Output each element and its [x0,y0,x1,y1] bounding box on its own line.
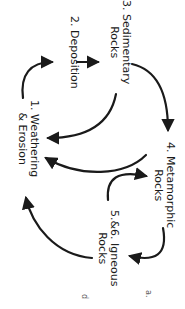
stage-metamorphic-rocks: 4. Metamorphic Rocks [152,142,176,228]
text-fragment: d [80,294,89,299]
arrow-sedimentary-to-weathering [48,94,116,138]
arrow-sedimentary-to-metamorphic [132,64,168,130]
rock-cycle-diagram: 2. Deposition 3. Sedimentary Rocks 1. We… [0,0,185,309]
stage-igneous-rocks: 5.&6. Igneous Rocks [96,210,120,286]
stage-sedimentary-rocks: 3. Sedimentary Rocks [108,0,132,84]
stage-weathering-erosion: 1. Weathering & Erosion [16,100,40,177]
arrow-metamorphic-to-weathering [46,155,146,172]
text-fragment: a. [144,290,153,297]
arrow-igneous-to-metamorphic [108,174,146,200]
stage-deposition: 2. Deposition [68,16,80,89]
arrow-metamorphic-to-igneous [130,228,164,258]
arrow-weathering-to-deposition [22,62,52,98]
arrow-igneous-to-weathering [26,198,92,258]
